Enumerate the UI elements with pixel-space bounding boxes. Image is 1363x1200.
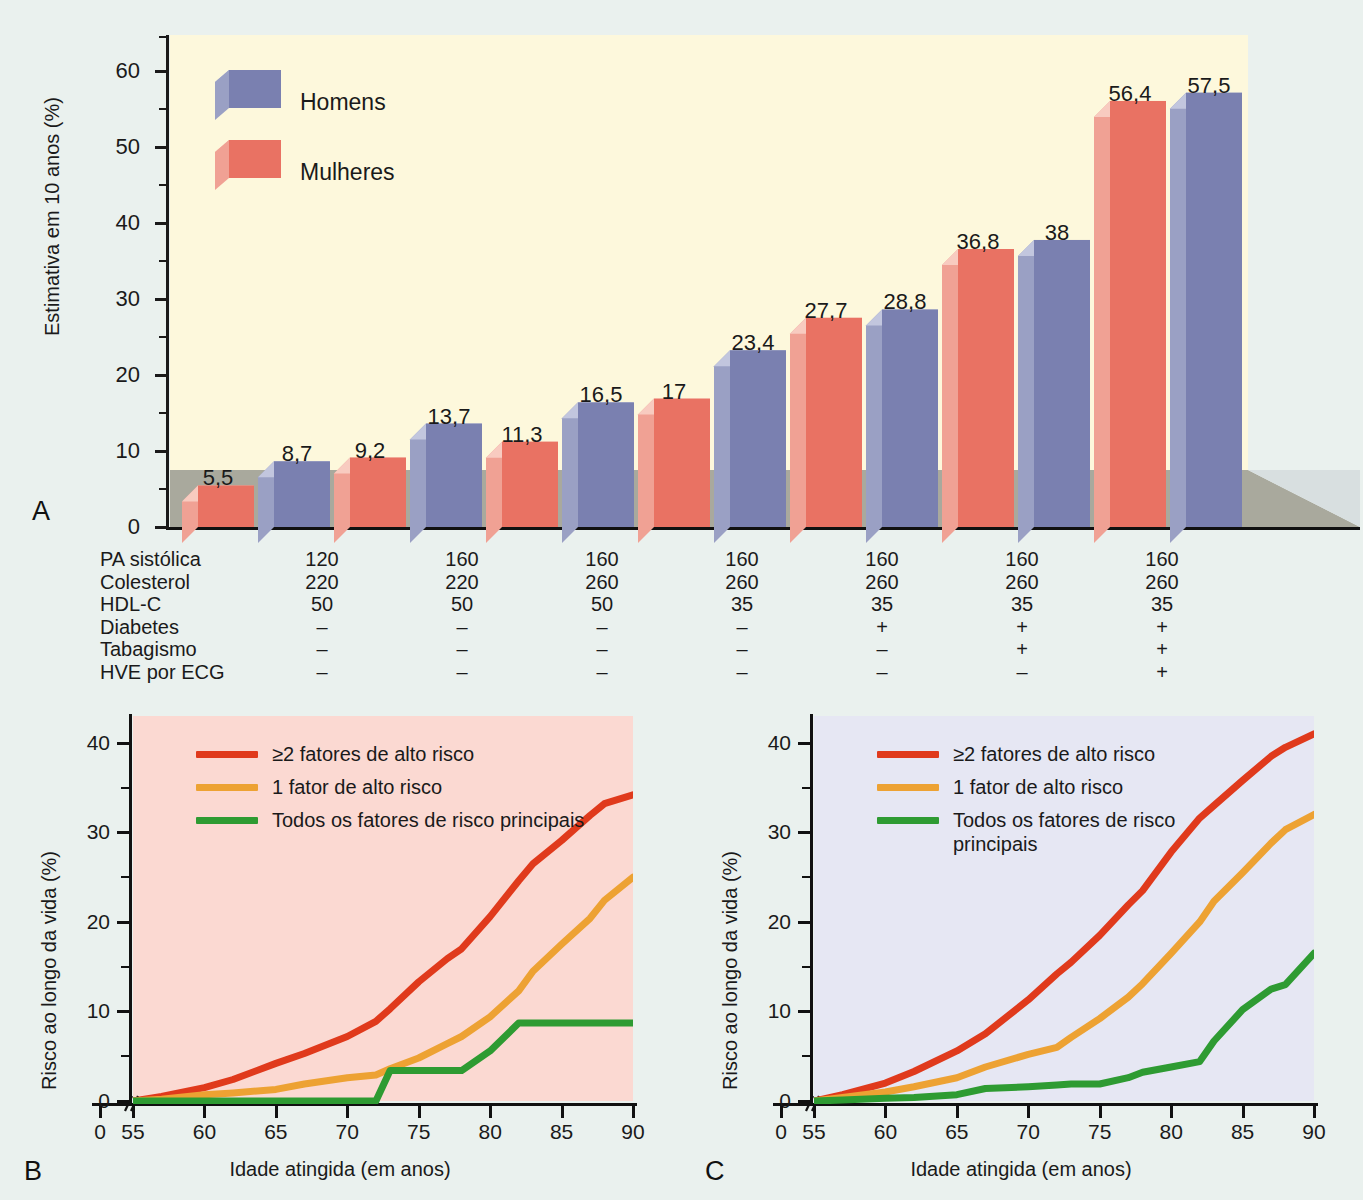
y-tick-minor [121,876,131,878]
risk-factor-cell: 120 [252,548,392,571]
risk-factor-cell: 160 [532,548,672,571]
risk-factor-cell: 50 [392,593,532,616]
series-line [133,877,633,1101]
legend-label-all-optimal: Todos os fatores de riscoprincipais [953,808,1175,856]
legend-label-2-plus: ≥2 fatores de alto risco [272,742,474,766]
y-tick-label: 40 [68,732,110,753]
risk-factor-cell: – [252,638,392,661]
bar-value-mulheres: 17 [622,379,726,405]
y-tick [798,1100,812,1103]
y-tick-minor [121,966,131,968]
risk-factor-cell: – [952,661,1092,684]
risk-factor-cell: 35 [672,593,812,616]
risk-factor-cell: 160 [812,548,952,571]
x-tick [561,1106,564,1118]
y-tick-label: 40 [749,732,791,753]
x-tick-label: 75 [1075,1120,1125,1144]
x-tick [884,1106,887,1118]
legend-item-2-plus: ≥2 fatores de alto risco [196,742,584,766]
y-tick-label: 30 [749,821,791,842]
risk-factor-cell: 260 [812,571,952,594]
risk-factor-cell: 160 [1092,548,1232,571]
x-tick-label: 85 [537,1120,587,1144]
x-tick [418,1106,421,1118]
risk-factor-cell: – [392,616,532,639]
x-tick [132,1106,135,1118]
risk-factor-cell: 260 [532,571,672,594]
risk-factor-row-label: Diabetes [100,616,252,639]
bar-value-mulheres: 11,3 [470,422,574,448]
x-tick [346,1106,349,1118]
y-tick-label: 20 [749,911,791,932]
legend-label-1-factor: 1 fator de alto risco [272,775,442,799]
risk-factor-cell: 260 [1092,571,1232,594]
risk-factor-cell: + [1092,661,1232,684]
risk-factor-cell: – [252,616,392,639]
y-tick [798,1010,812,1013]
x-tick-0 [780,1106,783,1118]
risk-factor-row: HVE por ECG––––––+ [100,661,1340,684]
x-tick-0 [99,1106,102,1118]
x-tick [813,1106,816,1118]
panel-b-legend: ≥2 fatores de alto risco 1 fator de alto… [196,742,584,841]
x-tick-label: 65 [932,1120,982,1144]
risk-factor-row-label: HVE por ECG [100,661,252,684]
x-tick [1027,1106,1030,1118]
legend-label-2-plus: ≥2 fatores de alto risco [953,742,1155,766]
panel-a-letter: A [32,496,50,527]
y-tick [798,921,812,924]
x-tick [1170,1106,1173,1118]
risk-factor-row: HDL-C50505035353535 [100,593,1340,616]
panel-a-bar-chart: 0 10 20 30 40 50 60 Estimativa em 10 ano… [0,0,1363,690]
y-tick-minor [802,876,812,878]
risk-factor-row-label: PA sistólica [100,548,252,571]
risk-factor-cell: + [952,638,1092,661]
panel-c-line-chart: 01020304005560657075808590 Risco ao long… [681,690,1361,1200]
risk-factor-cell: – [532,638,672,661]
y-tick [798,742,812,745]
panel-c-y-axis-title: Risco ao longo da vida (%) [719,851,742,1090]
x-tick [1099,1106,1102,1118]
panel-b-line-chart: 01020304005560657075808590 Risco ao long… [0,690,680,1200]
legend-swatch-2-plus-icon [877,751,939,758]
y-tick-label: 20 [68,911,110,932]
risk-factor-cell: 220 [392,571,532,594]
y-tick-label: 30 [68,821,110,842]
bar-value-homens: 38 [1008,220,1106,246]
x-tick [275,1106,278,1118]
x-tick-label: 90 [608,1120,658,1144]
x-tick-label: 60 [860,1120,910,1144]
risk-factor-row-label: HDL-C [100,593,252,616]
risk-factor-row-label: Colesterol [100,571,252,594]
y-tick-minor [802,966,812,968]
risk-factor-cell: 260 [952,571,1092,594]
panel-b-y-axis-line [129,714,132,1106]
x-tick [1313,1106,1316,1118]
x-tick-label: 75 [394,1120,444,1144]
risk-factor-cell: – [812,661,952,684]
x-tick-label: 70 [1003,1120,1053,1144]
legend-label-all-optimal: Todos os fatores de risco principais [272,808,584,832]
y-tick-minor [121,1055,131,1057]
risk-factor-cell: – [392,638,532,661]
x-tick-label: 85 [1218,1120,1268,1144]
x-tick-label: 70 [322,1120,372,1144]
panel-c-x-axis-title: Idade atingida (em anos) [681,1158,1361,1181]
risk-factor-cell: 35 [952,593,1092,616]
panel-c-letter: C [705,1156,725,1187]
risk-factor-cell: 260 [672,571,812,594]
risk-factor-cell: + [1092,638,1232,661]
legend-swatch-2-plus-icon [196,751,258,758]
panel-b-x-axis-title: Idade atingida (em anos) [0,1158,680,1181]
risk-factor-row: Diabetes––––+++ [100,616,1340,639]
x-tick-label: 80 [465,1120,515,1144]
y-tick [117,831,131,834]
panel-c-y-axis-line [810,714,813,1106]
y-tick [117,742,131,745]
x-tick-label: 55 [789,1120,839,1144]
risk-factor-cell: + [952,616,1092,639]
x-tick [489,1106,492,1118]
risk-factor-row: Tabagismo–––––++ [100,638,1340,661]
risk-factor-cell: + [1092,616,1232,639]
risk-factor-cell: + [812,616,952,639]
